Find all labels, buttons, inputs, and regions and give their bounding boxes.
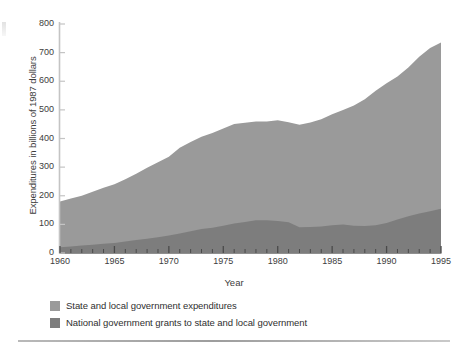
plot-areas [60,43,441,253]
bottom-divider-rule [18,340,450,342]
x-tick-label: 1980 [258,256,298,266]
x-tick-label: 1965 [94,256,134,266]
legend-swatch-state-local [50,301,60,311]
chart-legend: State and local government expenditures … [50,298,450,332]
x-tick-label: 1975 [203,256,243,266]
y-axis-title: Expenditures in billions of 1987 dollars [27,16,38,256]
x-axis-title: Year [0,277,468,288]
legend-swatch-national-grants [50,318,60,328]
legend-item-state-local: State and local government expenditures [50,298,450,313]
legend-label-state-local: State and local government expenditures [66,300,237,311]
legend-label-national-grants: National government grants to state and … [66,317,307,328]
x-tick-label: 1990 [367,256,407,266]
legend-item-national-grants: National government grants to state and … [50,315,450,330]
area-chart-plot [0,0,468,349]
x-tick-label: 1970 [149,256,189,266]
x-tick-label: 1960 [40,256,80,266]
figure-container: 0100200300400500600700800 19601965197019… [0,0,468,349]
x-tick-label: 1995 [421,256,461,266]
x-tick-label: 1985 [312,256,352,266]
